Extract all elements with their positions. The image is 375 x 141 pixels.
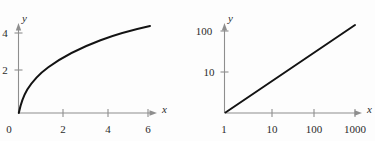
left-y-axis-arrow-icon (16, 23, 21, 31)
left-y-ticklabel-4: 4 (2, 27, 8, 39)
right-figure: y x 100 10 1 10 100 1000 (187, 0, 374, 141)
right-x-ticklabel-10: 10 (267, 123, 279, 135)
left-origin-label: 0 (6, 123, 12, 135)
right-figure-canvas: y x 100 10 1 10 100 1000 (187, 0, 375, 141)
left-figure: y x 4 2 0 2 4 6 (0, 0, 187, 141)
right-y-axis-arrow-icon (222, 23, 227, 31)
right-x-axis-label: x (366, 103, 372, 115)
left-x-ticklabel-2: 2 (60, 123, 66, 135)
left-figure-canvas: y x 4 2 0 2 4 6 (0, 0, 187, 141)
right-x-ticklabel-100: 100 (306, 123, 323, 135)
right-y-axis-label: y (227, 12, 233, 24)
right-x-axis-arrow-icon (355, 110, 363, 115)
left-y-ticklabel-2: 2 (2, 64, 8, 76)
right-y-ticklabel-100: 100 (196, 25, 213, 37)
left-data-curve (19, 26, 150, 113)
right-x-ticklabel-1000: 1000 (344, 123, 367, 135)
right-origin-label: 1 (221, 123, 227, 135)
left-x-axis-arrow-icon (150, 110, 158, 115)
right-data-line (226, 25, 356, 113)
figure-pair: y x 4 2 0 2 4 6 (0, 0, 375, 141)
left-y-axis-label: y (21, 12, 27, 24)
left-x-ticklabel-6: 6 (145, 123, 151, 135)
left-x-axis-label: x (161, 103, 167, 115)
left-x-ticklabel-4: 4 (105, 123, 111, 135)
right-y-ticklabel-10: 10 (204, 66, 216, 78)
